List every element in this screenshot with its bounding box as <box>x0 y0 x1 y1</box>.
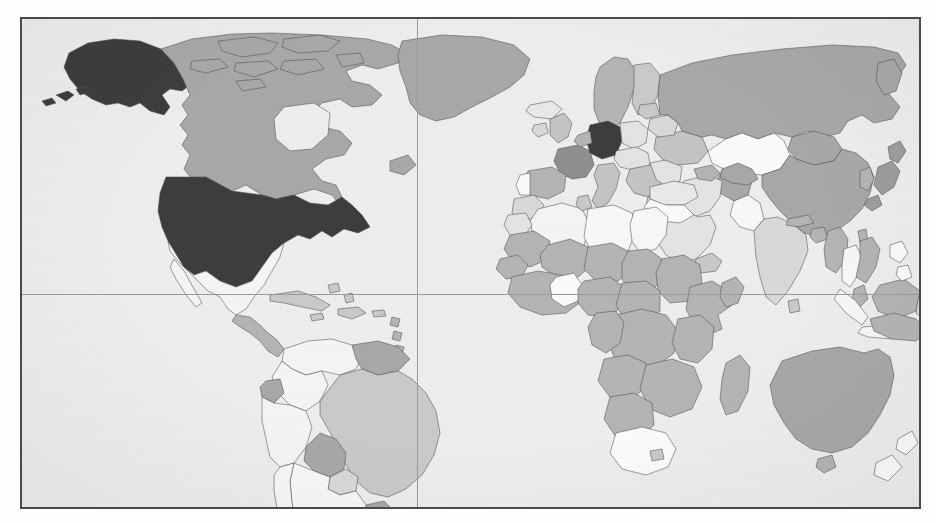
region-philippines <box>890 241 912 281</box>
region-lesotho <box>650 449 664 461</box>
region-hispaniola <box>338 307 366 319</box>
region-madagascar[interactable] <box>720 355 750 415</box>
region-jamaica <box>310 313 324 321</box>
map-canvas <box>22 19 919 507</box>
region-norway-sweden[interactable] <box>594 57 636 131</box>
region-united-kingdom[interactable] <box>550 113 572 143</box>
region-poland[interactable] <box>620 121 648 149</box>
region-vietnam-laos-cambodia[interactable] <box>856 237 880 283</box>
region-sri-lanka <box>788 299 800 313</box>
region-uruguay[interactable] <box>366 501 392 509</box>
region-ireland <box>532 123 548 137</box>
figure-page <box>0 0 938 523</box>
region-greenland[interactable] <box>398 35 530 121</box>
map-frame <box>20 17 921 509</box>
region-somalia-horn <box>720 277 744 307</box>
world-map-svg <box>22 19 921 509</box>
region-italy[interactable] <box>592 163 620 209</box>
region-angola[interactable] <box>598 355 648 399</box>
region-aleutian-islands <box>42 87 90 106</box>
region-borneo[interactable] <box>872 279 920 319</box>
region-bahamas <box>328 283 354 303</box>
region-puerto-rico <box>372 310 386 317</box>
region-newfoundland <box>390 155 416 175</box>
region-nigeria[interactable] <box>578 277 624 317</box>
region-new-zealand[interactable] <box>874 431 918 481</box>
region-central-america[interactable] <box>232 315 284 357</box>
region-india[interactable] <box>754 217 808 305</box>
region-russia[interactable] <box>658 45 906 139</box>
region-kenya-tanzania-uganda[interactable] <box>672 315 714 363</box>
region-baltics <box>638 103 660 119</box>
region-korea[interactable] <box>860 167 874 191</box>
region-cuba <box>270 291 330 311</box>
region-portugal[interactable] <box>516 173 530 195</box>
region-tasmania <box>816 455 836 473</box>
region-australia[interactable] <box>770 347 894 453</box>
region-south-africa[interactable] <box>610 427 676 475</box>
